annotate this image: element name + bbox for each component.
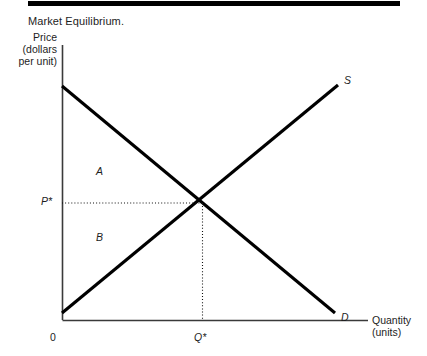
x-axis-label-line-2: (units) <box>372 326 411 338</box>
x-axis-label: Quantity (units) <box>372 314 411 338</box>
quantity-equilibrium-label: Q* <box>194 331 206 343</box>
price-equilibrium-label: P* <box>41 195 52 207</box>
figure-container: Market Equilibrium. Price (dollars per u… <box>0 0 427 356</box>
region-b-label: B <box>96 231 103 243</box>
y-axis-label-line-2: (dollars <box>0 43 57 55</box>
supply-curve-label: S <box>344 74 351 86</box>
y-axis-label: Price (dollars per unit) <box>0 31 57 67</box>
x-axis-label-line-1: Quantity <box>372 314 411 326</box>
market-equilibrium-chart <box>0 0 427 356</box>
demand-curve-label: D <box>341 311 349 323</box>
y-axis-label-line-3: per unit) <box>0 55 57 67</box>
origin-tick-label: 0 <box>50 331 56 343</box>
region-a-label: A <box>96 165 103 177</box>
y-axis-label-line-1: Price <box>0 31 57 43</box>
